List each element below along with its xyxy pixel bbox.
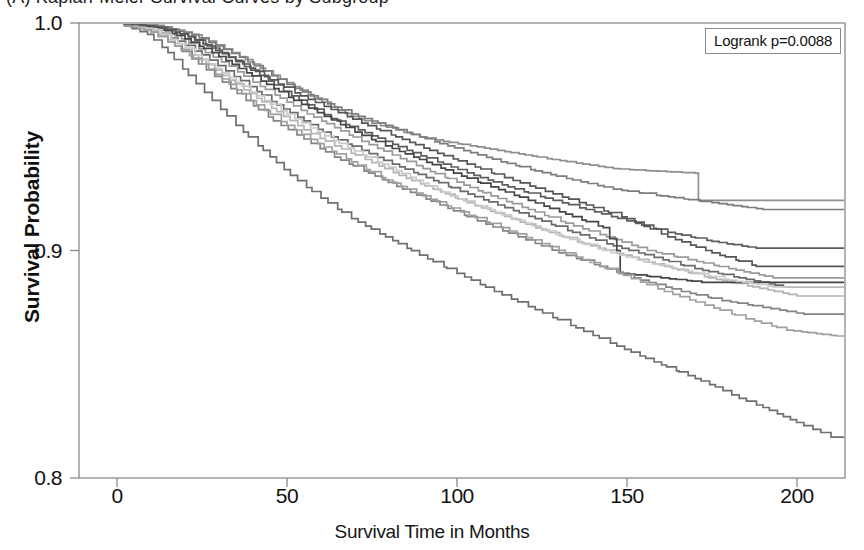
survival-plot-canvas [0,0,864,550]
plot-frame [79,23,845,478]
survival-curve-group-10 [117,23,845,437]
axis-ticks [70,23,797,487]
survival-curves [117,23,845,437]
survival-curve-group-6 [117,23,845,296]
plot-frame-rect [79,23,845,478]
figure-panel: (A) Kaplan-Meier Survival Curves by Subg… [0,0,864,550]
